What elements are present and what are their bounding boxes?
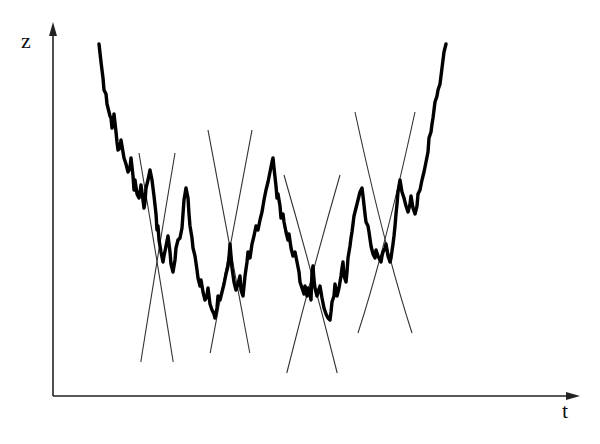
cusp-arc-1-1 bbox=[210, 130, 252, 353]
t-axis-arrow-icon bbox=[566, 392, 580, 400]
z-axis-label: z bbox=[21, 30, 31, 52]
z-axis-arrow-icon bbox=[49, 22, 57, 36]
cusp-arc-1-0 bbox=[208, 130, 250, 353]
axes bbox=[49, 22, 580, 400]
cusp-arc-0-0 bbox=[139, 153, 173, 362]
plot-canvas bbox=[0, 0, 600, 444]
t-axis-label: t bbox=[562, 400, 568, 422]
diagram-figure: z t bbox=[0, 0, 600, 444]
cusp-arc-3-0 bbox=[355, 112, 412, 333]
cusp-curves bbox=[139, 112, 415, 373]
fractal-curve bbox=[99, 44, 446, 320]
